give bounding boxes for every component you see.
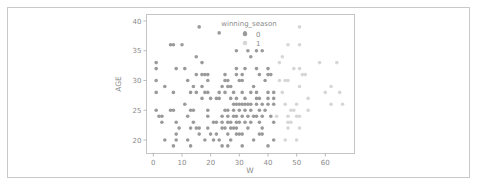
data-point-series-0 xyxy=(232,91,236,95)
data-point-series-0 xyxy=(197,126,201,130)
data-point-series-0 xyxy=(235,67,239,71)
data-point-series-0 xyxy=(240,132,244,136)
data-point-series-0 xyxy=(174,120,178,124)
data-point-series-0 xyxy=(258,109,262,113)
data-point-series-0 xyxy=(206,109,210,113)
data-point-series-0 xyxy=(258,73,262,77)
data-point-series-0 xyxy=(238,120,242,124)
data-point-series-0 xyxy=(235,114,239,118)
data-point-series-1 xyxy=(298,25,302,29)
data-point-series-0 xyxy=(160,114,164,118)
data-point-series-0 xyxy=(186,138,190,142)
data-point-series-0 xyxy=(177,126,181,130)
data-point-series-0 xyxy=(172,144,176,148)
data-point-series-0 xyxy=(172,91,176,95)
data-point-series-0 xyxy=(200,85,204,89)
data-point-series-0 xyxy=(163,138,167,142)
data-point-series-1 xyxy=(329,85,333,89)
data-point-series-1 xyxy=(281,91,285,95)
data-point-series-0 xyxy=(249,55,253,59)
data-point-series-1 xyxy=(338,91,342,95)
data-point-series-0 xyxy=(263,79,267,83)
data-point-series-0 xyxy=(186,79,190,83)
data-point-series-1 xyxy=(278,79,282,83)
data-point-series-0 xyxy=(220,144,224,148)
data-point-series-1 xyxy=(306,109,310,113)
data-point-series-0 xyxy=(255,49,259,53)
data-point-series-0 xyxy=(154,109,158,113)
data-point-series-0 xyxy=(249,103,253,107)
data-point-series-0 xyxy=(154,91,158,95)
data-point-series-0 xyxy=(235,97,239,101)
data-point-series-0 xyxy=(172,43,176,47)
data-point-series-0 xyxy=(266,97,270,101)
data-point-series-0 xyxy=(226,114,230,118)
data-point-series-0 xyxy=(209,132,213,136)
data-point-series-0 xyxy=(235,73,239,77)
data-point-series-1 xyxy=(298,126,302,130)
data-point-series-0 xyxy=(200,97,204,101)
data-point-series-1 xyxy=(278,61,282,65)
data-point-series-0 xyxy=(260,103,264,107)
data-point-series-1 xyxy=(292,109,296,113)
data-point-series-0 xyxy=(243,120,247,124)
data-point-series-1 xyxy=(298,67,302,71)
x-tick-label: 30 xyxy=(235,159,244,167)
data-point-series-0 xyxy=(249,91,253,95)
data-point-series-0 xyxy=(197,132,201,136)
data-point-series-1 xyxy=(286,126,290,130)
data-point-series-0 xyxy=(260,132,264,136)
data-point-series-0 xyxy=(243,109,247,113)
data-point-series-0 xyxy=(240,144,244,148)
data-point-series-0 xyxy=(229,120,233,124)
data-point-series-0 xyxy=(246,49,250,53)
data-point-series-0 xyxy=(240,91,244,95)
data-point-series-0 xyxy=(226,132,230,136)
data-point-series-0 xyxy=(272,91,276,95)
data-point-series-1 xyxy=(295,138,299,142)
data-point-series-1 xyxy=(275,114,279,118)
data-point-series-0 xyxy=(229,85,233,89)
data-point-series-0 xyxy=(255,91,259,95)
data-point-series-0 xyxy=(215,120,219,124)
data-point-series-0 xyxy=(272,103,276,107)
data-point-series-1 xyxy=(286,114,290,118)
data-point-series-0 xyxy=(235,126,239,130)
data-point-series-0 xyxy=(192,85,196,89)
data-point-series-1 xyxy=(295,103,299,107)
data-point-series-0 xyxy=(243,67,247,71)
y-tick-label: 30 xyxy=(133,77,142,85)
data-point-series-1 xyxy=(335,61,339,65)
data-point-series-0 xyxy=(186,114,190,118)
data-point-series-0 xyxy=(266,91,270,95)
data-point-series-1 xyxy=(298,85,302,89)
data-point-series-1 xyxy=(298,43,302,47)
x-axis: 0102030405060 xyxy=(151,154,330,167)
data-point-series-0 xyxy=(203,138,207,142)
x-tick-label: 10 xyxy=(178,159,187,167)
data-point-series-1 xyxy=(306,97,310,101)
data-point-series-0 xyxy=(255,114,259,118)
data-point-series-0 xyxy=(206,114,210,118)
data-point-series-1 xyxy=(324,91,328,95)
legend-label-0: 0 xyxy=(256,31,260,39)
y-axis-label: AGE xyxy=(114,76,123,92)
y-tick-label: 35 xyxy=(133,47,142,55)
x-tick-label: 60 xyxy=(321,159,330,167)
data-point-series-0 xyxy=(212,138,216,142)
data-point-series-0 xyxy=(160,120,164,124)
data-point-series-0 xyxy=(260,126,264,130)
legend-marker-0 xyxy=(243,32,248,37)
data-point-series-1 xyxy=(289,120,293,124)
data-point-series-0 xyxy=(206,126,210,130)
data-point-series-0 xyxy=(240,79,244,83)
data-point-series-1 xyxy=(283,138,287,142)
data-point-series-0 xyxy=(258,97,262,101)
data-point-series-1 xyxy=(286,79,290,83)
x-tick-label: 0 xyxy=(151,159,155,167)
data-point-series-0 xyxy=(209,97,213,101)
data-point-series-0 xyxy=(195,55,199,59)
data-point-series-1 xyxy=(304,73,308,77)
legend-label-1: 1 xyxy=(256,40,260,48)
data-point-series-0 xyxy=(255,103,259,107)
